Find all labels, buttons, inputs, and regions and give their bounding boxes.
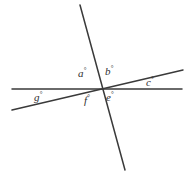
angle-label-a: a°	[78, 67, 87, 79]
geometry-diagram: a° b° c° e° f° g°	[0, 0, 193, 179]
degree-symbol-a: °	[84, 66, 87, 74]
degree-symbol-g: °	[40, 90, 43, 98]
geometry-canvas	[0, 0, 193, 179]
angle-label-e: e°	[106, 91, 114, 103]
degree-symbol-f: °	[87, 93, 90, 101]
degree-symbol-b: °	[111, 64, 114, 72]
angle-label-f: f°	[84, 94, 90, 106]
degree-symbol-e: °	[111, 90, 114, 98]
angle-label-g: g°	[34, 91, 43, 103]
angle-label-c: c°	[146, 76, 154, 88]
degree-symbol-c: °	[151, 75, 154, 83]
angle-label-b: b°	[105, 65, 114, 77]
steep-line	[80, 5, 125, 170]
